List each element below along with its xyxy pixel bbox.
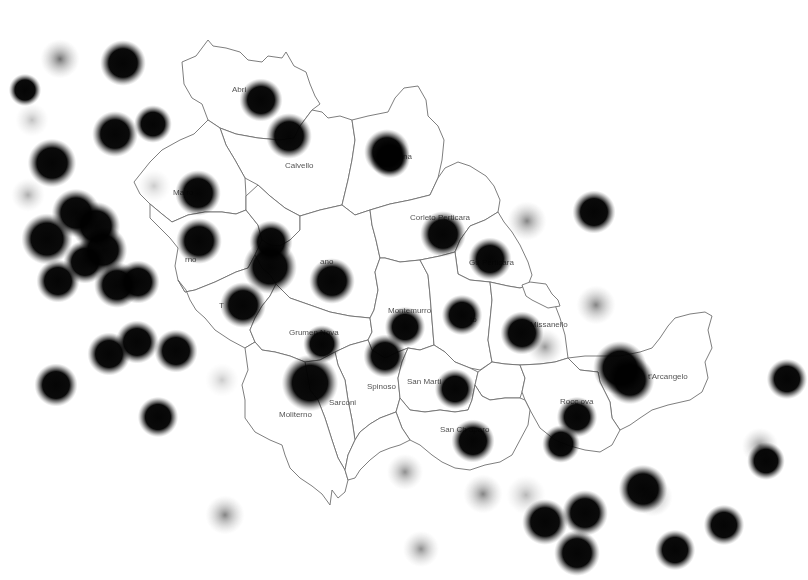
heat-point [420,211,466,257]
heat-point [138,397,179,438]
heat-point [134,105,172,143]
heat-point [542,425,580,463]
heat-point [116,260,159,303]
heat-point [11,178,45,212]
heat-point [403,531,439,567]
heat-point [15,103,49,137]
heat-point [451,419,494,462]
heat-point [370,138,411,179]
heat-point [40,39,79,78]
heat-point [507,201,546,240]
heat-point [554,530,600,576]
label-spinoso: Spinoso [367,382,396,391]
heat-point [576,285,615,324]
label-calvello: Calvello [285,161,314,170]
heat-point [239,78,282,121]
heat-point [176,218,222,264]
heat-point [767,359,808,400]
heat-point [92,111,138,157]
heat-point [468,237,511,280]
heat-point [704,505,745,546]
heat-point [266,113,312,159]
heat-point [220,282,266,328]
municipality-boundaries [134,40,712,505]
heat-point [282,355,339,412]
heat-point [175,170,221,216]
heat-point [435,369,476,410]
heat-point [527,329,563,365]
heat-point [205,495,244,534]
heat-point [309,258,355,304]
heat-point [34,363,77,406]
heat-point [572,190,615,233]
heat-point [115,320,158,363]
heat-point [442,295,483,336]
heat-point [363,334,406,377]
heat-point [506,475,545,514]
heat-point [562,490,608,536]
heat-point [387,454,423,490]
heatmap: Abri Calvello na Ma ro Corleto Perticara… [0,0,808,580]
heat-point [154,329,197,372]
heat-point [9,74,41,106]
heat-point [137,169,171,203]
heat-point [747,442,785,480]
heat-point [633,477,672,516]
heat-point [463,474,502,513]
heat-point [100,40,146,86]
heat-point [205,363,239,397]
heat-point [655,530,696,571]
label-moliterno: Moliterno [279,410,312,419]
heat-point [606,356,655,405]
